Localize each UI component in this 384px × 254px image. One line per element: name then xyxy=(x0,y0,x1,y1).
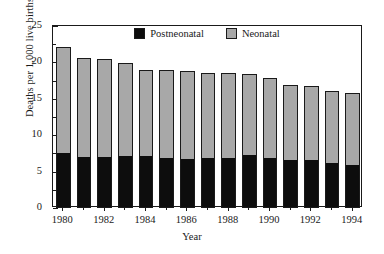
y-axis-tick-label: 15 xyxy=(20,93,42,104)
legend-item: Neonatal xyxy=(226,28,280,39)
chart-legend: PostneonatalNeonatal xyxy=(53,28,361,39)
legend-swatch-icon xyxy=(226,28,237,39)
x-axis-tick-label: 1986 xyxy=(176,215,197,226)
y-axis-tick-label: 5 xyxy=(20,165,42,176)
bar-group xyxy=(345,93,359,208)
bar-segment-postneonatal xyxy=(202,158,214,207)
x-axis-label: Year xyxy=(0,231,384,242)
x-axis-tick-label: 1990 xyxy=(259,215,280,226)
y-axis-tick-label: 25 xyxy=(20,20,42,31)
y-axis-tick-label: 20 xyxy=(20,56,42,67)
y-axis-tick-label: 0 xyxy=(20,202,42,213)
bar-group xyxy=(159,70,173,208)
chart-figure: Deaths per 1,000 live births 0510152025 … xyxy=(0,0,384,254)
bar-segment-postneonatal xyxy=(326,163,338,207)
x-tick-mark xyxy=(207,207,208,210)
x-tick-mark xyxy=(83,207,84,210)
x-axis-tick-label: 1988 xyxy=(217,215,238,226)
bar-group xyxy=(118,63,132,208)
bar-group xyxy=(221,73,235,208)
x-axis-tick-label: 1982 xyxy=(93,215,114,226)
x-axis-tick-label: 1984 xyxy=(135,215,156,226)
bar-group xyxy=(283,85,297,208)
bars-layer xyxy=(53,26,361,206)
legend-label: Postneonatal xyxy=(150,28,204,39)
bar-segment-postneonatal xyxy=(140,156,152,207)
bar-segment-postneonatal xyxy=(222,158,234,207)
y-axis-tick-label: 10 xyxy=(20,129,42,140)
x-axis-tick-label: 1992 xyxy=(300,215,321,226)
x-tick-mark xyxy=(166,207,167,210)
plot-area: PostneonatalNeonatal xyxy=(52,25,362,207)
bar-group xyxy=(304,86,318,208)
legend-item: Postneonatal xyxy=(134,28,204,39)
bar-group xyxy=(242,74,256,208)
x-tick-mark xyxy=(124,207,125,210)
bar-group xyxy=(180,71,194,208)
bar-group xyxy=(97,59,111,208)
bar-segment-postneonatal xyxy=(305,160,317,207)
x-axis-tick-label: 1994 xyxy=(341,215,362,226)
bar-segment-postneonatal xyxy=(160,158,172,207)
bar-segment-postneonatal xyxy=(243,155,255,207)
bar-segment-postneonatal xyxy=(284,160,296,207)
x-axis-tick-labels: 19801982198419861988199019921994 xyxy=(52,211,362,227)
bar-group xyxy=(325,91,339,208)
bar-segment-postneonatal xyxy=(346,165,358,207)
bar-segment-postneonatal xyxy=(264,158,276,207)
legend-swatch-icon xyxy=(134,28,145,39)
bar-group xyxy=(139,70,153,208)
bar-group xyxy=(201,73,215,208)
x-axis-tick-label: 1980 xyxy=(52,215,73,226)
x-tick-mark xyxy=(290,207,291,210)
bar-group xyxy=(263,78,277,208)
bar-group xyxy=(77,58,91,208)
bar-segment-postneonatal xyxy=(78,157,90,207)
x-tick-mark xyxy=(331,207,332,210)
bar-segment-postneonatal xyxy=(181,159,193,207)
bar-segment-postneonatal xyxy=(98,157,110,207)
bar-segment-postneonatal xyxy=(57,153,69,207)
legend-label: Neonatal xyxy=(242,28,280,39)
bar-segment-postneonatal xyxy=(119,156,131,207)
y-axis-tick-labels: 0510152025 xyxy=(14,0,42,254)
x-tick-mark xyxy=(248,207,249,210)
bar-group xyxy=(56,47,70,208)
